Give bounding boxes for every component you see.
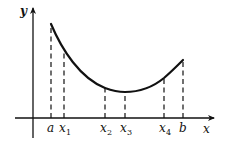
- x-axis-label: x: [203, 122, 210, 136]
- function-curve: [51, 24, 183, 92]
- tick-label-x3: x: [120, 121, 127, 135]
- tick-label-x2: x: [100, 121, 107, 135]
- y-axis-label: y: [19, 4, 28, 18]
- tick-subscript-3: 3: [127, 128, 132, 137]
- tick-label-x1: x: [59, 121, 66, 135]
- tick-label-x4: x: [159, 121, 166, 135]
- tick-label-a: a: [47, 121, 54, 135]
- tick-subscript-1: 1: [66, 128, 71, 137]
- function-graph: y x a x 1 x 2 x 3 x 4 b: [0, 0, 227, 146]
- tick-subscript-2: 2: [107, 128, 112, 137]
- tick-label-b: b: [179, 121, 187, 135]
- dashed-guides: [51, 24, 183, 118]
- tick-subscript-4: 4: [166, 128, 171, 137]
